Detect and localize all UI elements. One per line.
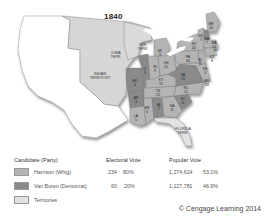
svg-text:30: 30	[186, 59, 190, 63]
van-buren-popular-votes: 1,127,781	[169, 183, 193, 189]
copyright-credit: © Cengage Learning 2014	[179, 205, 261, 212]
harrison-electoral-votes: 234	[108, 169, 117, 175]
svg-text:11: 11	[181, 101, 185, 105]
svg-text:5: 5	[135, 118, 137, 122]
svg-text:7: 7	[206, 41, 208, 45]
legend: Candidate (Party) Electoral Vote Popular…	[0, 150, 269, 219]
harrison-swatch	[14, 168, 29, 176]
svg-text:11: 11	[170, 108, 174, 112]
svg-text:23: 23	[181, 77, 185, 81]
us-map-graphic: IOWATERR.WIS.TERR.INDIANTERRITORYFLORIDA…	[0, 0, 269, 150]
svg-text:10: 10	[205, 83, 209, 87]
svg-text:21: 21	[164, 65, 168, 69]
state-label-md: MD10	[204, 79, 210, 87]
legend-row-harrison: Harrison (Whig)	[14, 167, 71, 177]
svg-text:TERRITORY: TERRITORY	[90, 76, 111, 80]
harrison-popular-votes: 1,274,624	[169, 169, 193, 175]
legend-header-popular: Popular Vote	[169, 157, 201, 163]
svg-text:4: 4	[146, 110, 148, 114]
svg-text:5: 5	[144, 71, 146, 75]
svg-text:42: 42	[192, 46, 196, 50]
svg-text:15: 15	[156, 93, 160, 97]
svg-text:4: 4	[215, 53, 217, 57]
territory-label: IOWATERR.	[111, 51, 122, 59]
territory-label: WIS.TERR.	[138, 43, 149, 51]
legend-header-electoral: Electoral Vote	[106, 157, 141, 163]
svg-text:8: 8	[211, 59, 213, 63]
svg-text:15: 15	[159, 82, 163, 86]
harrison-electoral-pct: 80%	[123, 169, 134, 175]
svg-text:7: 7	[200, 38, 202, 42]
svg-text:TERR.: TERR.	[138, 47, 149, 51]
van-buren-popular-pct: 46.9%	[203, 183, 218, 189]
svg-text:7: 7	[158, 107, 160, 111]
territories-swatch	[14, 196, 29, 204]
legend-label: Harrison (Whig)	[34, 169, 71, 175]
van-buren-electoral-pct: 20%	[124, 183, 135, 189]
legend-row-van-buren: Van Buren (Democrat)	[14, 181, 87, 191]
legend-label: Territories	[34, 197, 57, 203]
svg-text:15: 15	[184, 90, 188, 94]
harrison-popular-pct: 53.1%	[203, 169, 218, 175]
van-buren-swatch	[14, 182, 29, 190]
svg-text:8: 8	[199, 62, 201, 66]
svg-text:3: 3	[159, 53, 161, 57]
svg-text:3: 3	[204, 71, 206, 75]
state-label-ri: RI4	[214, 49, 217, 57]
svg-text:9: 9	[154, 69, 156, 73]
svg-text:TERR.: TERR.	[111, 55, 122, 59]
election-map: 1840	[0, 0, 269, 150]
van-buren-electoral-votes: 60	[111, 183, 117, 189]
legend-label: Van Buren (Democrat)	[34, 183, 87, 189]
svg-text:4: 4	[134, 83, 136, 87]
svg-text:10: 10	[209, 26, 213, 30]
svg-text:TERR.: TERR.	[178, 131, 189, 135]
legend-row-territories: Territories	[14, 195, 57, 205]
state-label-ct: CT8	[210, 55, 215, 63]
legend-header-candidate: Candidate (Party)	[14, 157, 58, 163]
svg-text:3: 3	[135, 100, 137, 104]
